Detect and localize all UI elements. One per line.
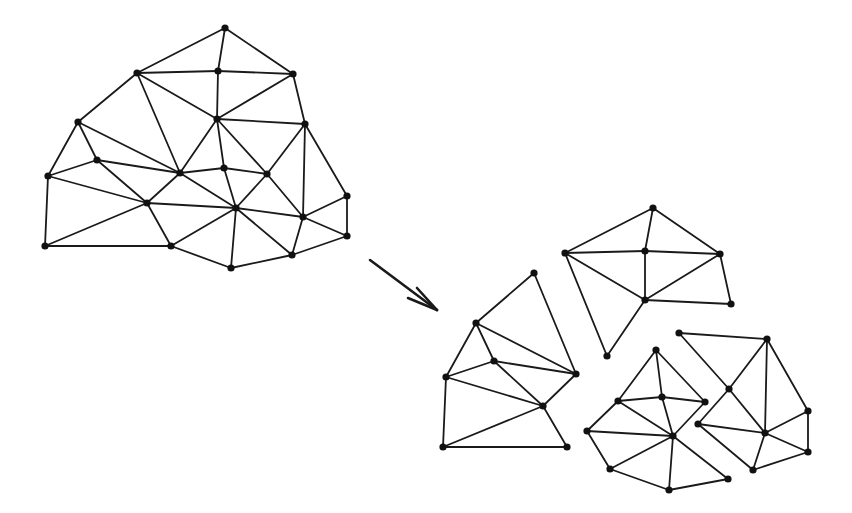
mesh-edge [565, 253, 645, 300]
mesh-edge [137, 73, 217, 119]
mesh-edge [587, 431, 610, 469]
mesh-edge [225, 28, 293, 74]
mesh-node [761, 429, 768, 436]
mesh-node [343, 192, 350, 199]
mesh-edge [137, 71, 218, 73]
mesh-edge [645, 254, 720, 300]
mesh-edge [137, 73, 180, 173]
mesh-node [561, 249, 568, 256]
mesh-edge [720, 254, 731, 304]
mesh-node [658, 393, 665, 400]
mesh-edge [231, 208, 236, 268]
mesh-node [614, 397, 621, 404]
mesh-node [176, 169, 183, 176]
mesh-edge [78, 73, 137, 122]
mesh-edge [293, 74, 305, 124]
mesh-edge [45, 176, 48, 246]
mesh-edge [610, 436, 673, 469]
mesh-edge [543, 374, 576, 406]
mesh-node [539, 402, 546, 409]
mesh-edge [645, 300, 731, 304]
mesh-node [143, 199, 150, 206]
mesh-edge [698, 389, 729, 424]
mesh-node [725, 385, 732, 392]
mesh-node [490, 357, 497, 364]
mesh-node [701, 398, 708, 405]
mesh-edge [305, 124, 347, 196]
mesh-edge [217, 71, 218, 119]
mesh-edge [180, 168, 224, 173]
mesh-node [44, 172, 51, 179]
mesh-node [665, 486, 672, 493]
mesh-node [213, 115, 220, 122]
mesh-node [641, 296, 648, 303]
mesh-edge [587, 431, 673, 436]
mesh-edge [679, 333, 767, 339]
mesh-edge [303, 124, 305, 217]
mesh-node [669, 432, 676, 439]
mesh-edge [662, 397, 705, 402]
mesh-partition-diagram [0, 0, 852, 513]
original-mesh [41, 24, 350, 271]
mesh-edge [765, 411, 808, 433]
mesh-edge [218, 28, 225, 71]
mesh-edge [610, 469, 669, 490]
mesh-edge [765, 433, 808, 452]
mesh-edge [653, 208, 720, 254]
mesh-edge [753, 433, 765, 470]
mesh-node [133, 69, 140, 76]
mesh-edge [224, 168, 267, 174]
mesh-edge [607, 300, 645, 356]
mesh-node [749, 466, 756, 473]
mesh-node [563, 443, 570, 450]
mesh-node [606, 465, 613, 472]
mesh-edge [476, 323, 494, 361]
mesh-edge [645, 208, 653, 251]
mesh-edge [147, 203, 236, 208]
mesh-edge [267, 174, 303, 217]
mesh-edge [618, 397, 662, 401]
mesh-edge [236, 174, 267, 208]
mesh-node [221, 24, 228, 31]
mesh-edge [534, 273, 576, 374]
mesh-edge [217, 74, 293, 119]
mesh-edge [443, 406, 543, 447]
mesh-edge [656, 350, 662, 397]
mesh-node [716, 250, 723, 257]
mesh-edge [753, 452, 808, 470]
mesh-edge [543, 406, 567, 447]
mesh-edge [292, 236, 347, 255]
mesh-node [227, 264, 234, 271]
mesh-node [167, 242, 174, 249]
mesh-node [472, 319, 479, 326]
mesh-node [641, 247, 648, 254]
mesh-node [301, 120, 308, 127]
mesh-edge [171, 208, 236, 246]
mesh-node [649, 204, 656, 211]
partition-bottom [583, 346, 731, 493]
mesh-edge [565, 253, 607, 356]
mesh-edge [476, 273, 534, 323]
mesh-node [603, 352, 610, 359]
mesh-node [652, 346, 659, 353]
partition-arrow-icon [370, 260, 437, 310]
mesh-edge [679, 333, 729, 389]
mesh-node [763, 335, 770, 342]
mesh-node [289, 70, 296, 77]
mesh-edge [587, 401, 618, 431]
mesh-edge [303, 196, 347, 217]
mesh-node [220, 164, 227, 171]
mesh-edge [729, 339, 767, 389]
mesh-edge [767, 339, 808, 411]
mesh-node [214, 67, 221, 74]
mesh-edge [669, 479, 728, 490]
mesh-node [343, 232, 350, 239]
mesh-node [41, 242, 48, 249]
meshes-group [41, 24, 811, 493]
partition-top [561, 204, 734, 359]
mesh-node [804, 448, 811, 455]
mesh-node [439, 443, 446, 450]
mesh-node [442, 373, 449, 380]
mesh-node [583, 427, 590, 434]
mesh-node [299, 213, 306, 220]
